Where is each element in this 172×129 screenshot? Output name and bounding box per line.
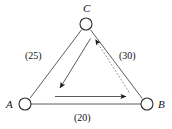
node-label-B: B [158,99,165,110]
triangle-edges [30,30,142,104]
edge-weight-A-C: (25) [25,51,42,61]
edge-weight-B-C: (30) [119,51,136,61]
edge-weight-A-B: (20) [74,113,91,123]
flow-arrow-B-to-C [96,40,130,93]
flow-arrow-C-to-A [60,39,91,89]
flow-arrows [55,39,129,97]
edge-A-C [30,30,82,99]
edge-B-C [91,30,143,99]
node-B[interactable] [141,98,153,110]
node-C[interactable] [80,18,92,30]
graph-canvas [0,0,172,129]
node-A[interactable] [19,98,31,110]
graph-diagram: C A B (25) (30) (20) [0,0,172,129]
node-label-C: C [83,3,90,14]
node-label-A: A [6,99,13,110]
